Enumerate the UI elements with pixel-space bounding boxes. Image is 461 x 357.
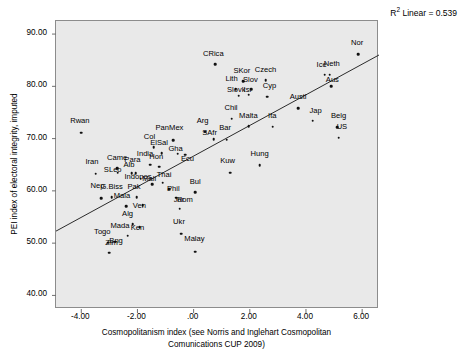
data-point-label: Arg: [197, 116, 209, 125]
data-point: [100, 197, 103, 200]
data-point-label: ElSal: [150, 138, 168, 147]
data-point-label: Togo: [94, 227, 110, 236]
data-point-label: Jap: [309, 106, 321, 115]
r-squared-value: Linear = 0.539: [400, 8, 457, 18]
data-point: [172, 139, 175, 142]
data-point-label: PanMex: [156, 123, 184, 132]
data-point-label: Lith: [225, 74, 237, 83]
data-point-label: US: [337, 122, 348, 131]
data-point: [127, 235, 130, 238]
data-point: [194, 191, 197, 194]
data-point-label: SKor: [233, 66, 250, 75]
data-point: [250, 88, 253, 91]
data-point: [229, 171, 232, 174]
y-tick-label: 70.00: [3, 133, 47, 142]
data-point: [80, 132, 83, 135]
data-point-label: Chil: [224, 103, 237, 112]
data-point-label: Belg: [331, 111, 346, 120]
data-point-label: Hung: [251, 149, 269, 158]
data-point-label: Mada: [111, 221, 130, 230]
data-point-label: Slov: [243, 75, 258, 84]
y-tick-label: 80.00: [3, 80, 47, 89]
x-tick-label: -4.00: [57, 312, 103, 321]
data-point: [231, 117, 234, 120]
data-point-label: Pak: [128, 182, 141, 191]
data-point-label: Mali: [142, 174, 156, 183]
y-tick-label: 90.00: [3, 28, 47, 37]
data-point-label: Ecu: [181, 154, 194, 163]
data-point-label: Ven: [133, 201, 146, 210]
data-point-label: CRica: [203, 49, 224, 58]
data-point-label: Mala: [114, 191, 130, 200]
data-point: [149, 163, 152, 166]
data-point: [161, 181, 164, 184]
data-point: [178, 207, 181, 210]
data-point-label: SLeo: [104, 165, 122, 174]
data-point-label: Thai: [157, 170, 172, 179]
data-point: [95, 172, 98, 175]
plot-area: RwanIranNepTogoZimBngG.BissCameSLeoMalaM…: [55, 20, 378, 308]
data-point-label: Bul: [190, 177, 201, 186]
data-point: [266, 95, 269, 98]
data-point: [214, 63, 217, 66]
data-point-label: Ita: [268, 111, 276, 120]
data-point: [297, 107, 300, 110]
data-point-label: Iran: [85, 157, 98, 166]
x-axis-title: Cosmopolitanism index (see Norris and In…: [55, 327, 378, 350]
data-point: [247, 125, 250, 128]
data-point-label: G.Biss: [100, 182, 122, 191]
data-point-label: Nor: [351, 38, 363, 47]
data-point: [258, 164, 261, 167]
data-point: [151, 183, 154, 186]
y-axis-title: PEI index of electoral integrity, impute…: [8, 20, 22, 308]
y-tick-label: 60.00: [3, 185, 47, 194]
data-point: [110, 196, 113, 199]
data-point: [194, 250, 197, 253]
data-point-label: Gha: [168, 144, 182, 153]
data-point: [272, 125, 275, 128]
data-point-label: Neth: [324, 59, 340, 68]
data-point: [125, 205, 128, 208]
x-tick-label: 4.00: [282, 312, 328, 321]
data-point: [180, 232, 183, 235]
data-point-label: Rwan: [70, 116, 89, 125]
data-point: [330, 85, 333, 88]
x-axis-title-line-1: Cosmopolitanism index (see Norris and In…: [55, 327, 378, 339]
data-point: [225, 138, 228, 141]
r-squared-annotation: R2 Linear = 0.539: [390, 6, 457, 18]
data-point: [158, 166, 161, 169]
data-point: [311, 120, 314, 123]
data-point-label: Austl: [290, 92, 307, 101]
data-point-label: Phil: [167, 184, 180, 193]
data-point-label: Aus: [326, 75, 339, 84]
data-point-label: Malay: [184, 234, 204, 243]
data-point-label: Rom: [177, 195, 193, 204]
data-point-label: Ken: [131, 223, 145, 232]
y-tick-label: 50.00: [3, 237, 47, 246]
data-point-label: Ukr: [173, 217, 185, 226]
y-tick-label: 40.00: [3, 289, 47, 298]
x-tick-label: 6.00: [338, 312, 384, 321]
data-point: [213, 138, 216, 141]
data-point-label: Bar: [219, 123, 231, 132]
x-axis-title-line-2: Comunications CUP 2009): [55, 339, 378, 351]
data-point: [108, 251, 111, 254]
x-tick-label: -2.00: [113, 312, 159, 321]
data-point: [237, 94, 240, 97]
data-point-label: Bng: [109, 236, 123, 245]
data-point-label: Cyp: [263, 81, 277, 90]
x-tick-label: .00: [170, 312, 216, 321]
data-point-label: Czech: [255, 65, 277, 74]
data-point-label: Kuw: [220, 156, 235, 165]
data-point: [357, 53, 360, 56]
data-point-label: Alg: [122, 209, 133, 218]
data-point-label: Malta: [239, 111, 258, 120]
data-point-label: SAfr: [202, 128, 217, 137]
data-point: [161, 152, 164, 155]
data-point: [337, 136, 340, 139]
x-tick-label: 2.00: [226, 312, 272, 321]
data-point: [135, 196, 138, 199]
data-point: [177, 152, 180, 155]
scatter-plot-figure: R2 Linear = 0.539 PEI index of electoral…: [0, 0, 461, 357]
